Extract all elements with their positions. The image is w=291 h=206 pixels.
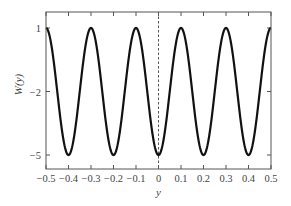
x-axis-label: y (155, 186, 161, 198)
chart: −0.5−0.4−0.3−0.2−0.100.10.20.30.40.5 1−2… (0, 0, 291, 206)
y-tick-label: −2 (30, 87, 41, 98)
x-tick-label: 0 (156, 173, 161, 184)
x-axis-ticks: −0.5−0.4−0.3−0.2−0.100.10.20.30.40.5 (36, 12, 277, 184)
x-tick-label: −0.1 (126, 173, 145, 184)
y-tick-label: 1 (36, 23, 41, 34)
y-axis-ticks: 1−2−5 (30, 23, 271, 161)
x-tick-label: −0.5 (36, 173, 55, 184)
x-tick-label: 0.2 (197, 173, 210, 184)
x-tick-label: −0.2 (104, 173, 123, 184)
y-axis-label: W(y) (12, 73, 25, 95)
x-tick-label: 0.3 (219, 173, 232, 184)
x-tick-label: 0.4 (242, 173, 256, 184)
x-tick-label: −0.3 (81, 173, 100, 184)
x-tick-label: 0.1 (174, 173, 187, 184)
x-tick-label: 0.5 (264, 173, 277, 184)
y-tick-label: −5 (30, 150, 41, 161)
x-tick-label: −0.4 (59, 173, 79, 184)
